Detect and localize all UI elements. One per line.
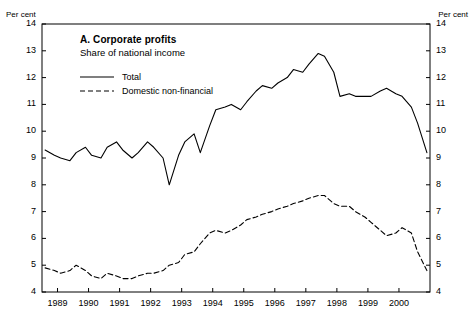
x-tick-label: 1996 bbox=[259, 298, 291, 308]
legend-swatch-dashed bbox=[80, 86, 114, 96]
x-tick-label: 1989 bbox=[42, 298, 74, 308]
y-tick-label-left: 8 bbox=[16, 179, 36, 189]
y-tick-label-right: 5 bbox=[436, 259, 456, 269]
y-tick-label-right: 7 bbox=[436, 206, 456, 216]
panel-title: A. Corporate profits bbox=[80, 34, 185, 45]
y-tick-label-left: 5 bbox=[16, 259, 36, 269]
panel-subtitle: Share of national income bbox=[80, 47, 185, 58]
y-tick-label-right: 8 bbox=[436, 179, 456, 189]
y-tick-label-left: 4 bbox=[16, 286, 36, 296]
y-tick-label-left: 11 bbox=[16, 98, 36, 108]
y-tick-label-right: 10 bbox=[436, 125, 456, 135]
x-tick-label: 1992 bbox=[135, 298, 167, 308]
y-tick-label-right: 14 bbox=[436, 18, 456, 28]
legend-label-domestic-non-financial: Domestic non-financial bbox=[122, 86, 213, 96]
chart-legend: Total Domestic non-financial bbox=[80, 70, 213, 98]
x-tick-label: 1998 bbox=[321, 298, 353, 308]
y-tick-label-right: 6 bbox=[436, 232, 456, 242]
y-tick-label-right: 11 bbox=[436, 98, 456, 108]
y-tick-label-left: 7 bbox=[16, 206, 36, 216]
chart-container: Per cent Per cent 1413121110987654 14131… bbox=[0, 0, 474, 325]
x-tick-label: 1990 bbox=[73, 298, 105, 308]
y-tick-label-left: 14 bbox=[16, 18, 36, 28]
y-tick-label-left: 12 bbox=[16, 72, 36, 82]
x-tick-label: 1995 bbox=[228, 298, 260, 308]
panel-title-block: A. Corporate profits Share of national i… bbox=[80, 34, 185, 58]
y-tick-label-left: 6 bbox=[16, 232, 36, 242]
legend-item-domestic-non-financial: Domestic non-financial bbox=[80, 84, 213, 98]
x-tick-label: 1997 bbox=[290, 298, 322, 308]
legend-item-total: Total bbox=[80, 70, 213, 84]
plot-area bbox=[0, 0, 474, 325]
x-tick-label: 1999 bbox=[352, 298, 384, 308]
x-tick-label: 2000 bbox=[383, 298, 415, 308]
y-tick-label-right: 4 bbox=[436, 286, 456, 296]
y-tick-label-left: 13 bbox=[16, 45, 36, 55]
x-tick-label: 1994 bbox=[197, 298, 229, 308]
legend-label-total: Total bbox=[122, 72, 141, 82]
legend-swatch-solid bbox=[80, 72, 114, 82]
y-tick-label-right: 9 bbox=[436, 152, 456, 162]
y-tick-label-left: 9 bbox=[16, 152, 36, 162]
x-tick-label: 1993 bbox=[166, 298, 198, 308]
x-tick-label: 1991 bbox=[104, 298, 136, 308]
y-tick-label-left: 10 bbox=[16, 125, 36, 135]
y-tick-label-right: 12 bbox=[436, 72, 456, 82]
y-tick-label-right: 13 bbox=[436, 45, 456, 55]
series-line-domestic-non-financial bbox=[45, 196, 427, 279]
